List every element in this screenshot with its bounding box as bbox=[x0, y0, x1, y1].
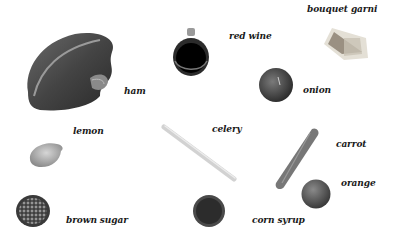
orange-label: orange bbox=[341, 178, 376, 188]
celery-label: celery bbox=[212, 124, 242, 134]
red-wine-image bbox=[171, 27, 211, 79]
red-wine-label: red wine bbox=[229, 31, 272, 41]
brown-sugar-image bbox=[15, 194, 51, 228]
onion-image bbox=[258, 67, 294, 103]
onion-label: onion bbox=[303, 85, 331, 95]
ham-label: ham bbox=[124, 86, 146, 96]
bouquet-garni-label: bouquet garni bbox=[307, 4, 377, 14]
corn-syrup-image bbox=[192, 194, 226, 228]
ham-image bbox=[20, 30, 120, 115]
corn-syrup-label: corn syrup bbox=[252, 215, 305, 225]
brown-sugar-label: brown sugar bbox=[66, 215, 128, 225]
orange-image bbox=[301, 179, 331, 209]
carrot-label: carrot bbox=[336, 139, 366, 149]
bouquet-garni-image bbox=[322, 26, 370, 62]
lemon-label: lemon bbox=[73, 126, 104, 136]
lemon-image bbox=[27, 141, 65, 169]
ingredients-picture: ham red wine bouquet garni bbox=[0, 0, 397, 229]
